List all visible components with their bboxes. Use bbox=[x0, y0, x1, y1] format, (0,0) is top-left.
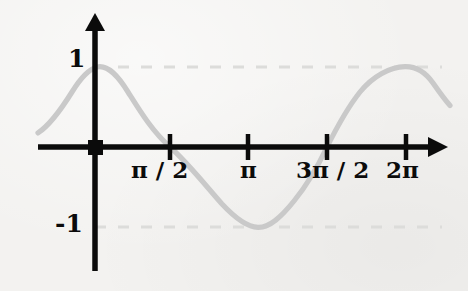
y-tick-label-one: 1 bbox=[68, 46, 85, 71]
origin-marker bbox=[88, 140, 103, 155]
x-tick-label-3pi-over-2: 3π / 2 bbox=[296, 158, 369, 181]
x-tick-label-2pi: 2π bbox=[386, 158, 419, 181]
x-tick-label-pi-over-2: π / 2 bbox=[131, 158, 188, 181]
figure-canvas: 1 -1 π / 2 π 3π / 2 2π bbox=[0, 0, 468, 291]
y-tick-label-negative-one: -1 bbox=[55, 211, 83, 236]
x-tick-label-pi: π bbox=[240, 158, 257, 181]
x-axis-arrowhead bbox=[428, 137, 448, 157]
y-axis-arrowhead bbox=[85, 13, 105, 31]
